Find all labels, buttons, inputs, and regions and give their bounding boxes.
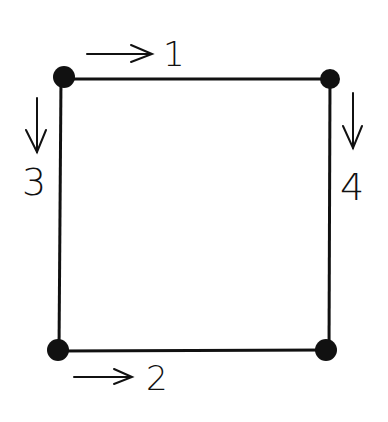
arrow-right-icon	[74, 369, 132, 384]
edge-4-right	[329, 79, 330, 350]
edge-label-2: 2	[146, 358, 168, 398]
edge-2-bottom	[58, 350, 326, 351]
arrow-right-icon	[87, 45, 152, 62]
edge-label-4: 4	[340, 165, 364, 209]
node-top-right	[320, 69, 340, 89]
square-diagram: 1 2 3 4	[0, 0, 388, 422]
edge-label-1: 1	[163, 34, 185, 74]
edge-3-left	[59, 78, 61, 350]
arrow-down-icon	[26, 98, 46, 152]
arrow-down-icon	[343, 93, 362, 148]
node-top-left	[53, 66, 75, 88]
edge-label-3: 3	[22, 160, 46, 204]
node-bottom-left	[47, 339, 69, 361]
node-bottom-right	[315, 339, 337, 361]
